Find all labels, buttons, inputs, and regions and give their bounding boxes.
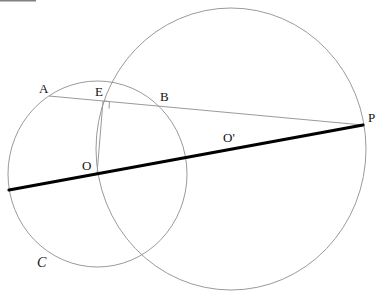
label-e: E <box>95 84 103 99</box>
diameter-line-op <box>9 125 363 190</box>
label-c: C <box>37 255 47 270</box>
label-o-prime: O' <box>223 130 235 145</box>
perpendicular-oe <box>97 101 103 174</box>
secant-line-ap <box>49 96 363 125</box>
label-b: B <box>160 89 169 104</box>
right-angle-marker <box>104 101 110 109</box>
label-o: O <box>82 158 91 173</box>
diagram-canvas: A E B P O O' C <box>0 0 379 292</box>
geometry-diagram: A E B P O O' C <box>0 0 379 292</box>
label-a: A <box>39 81 49 96</box>
label-p: P <box>368 110 375 125</box>
